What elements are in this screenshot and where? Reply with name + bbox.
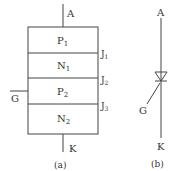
junction-j3-label: J3 <box>100 101 109 112</box>
thyristor-symbol-icon <box>147 18 167 138</box>
gate-label-a: G <box>11 93 19 104</box>
junction-j1-label: J1 <box>100 49 108 60</box>
caption-b: (b) <box>151 159 164 169</box>
figure-a-structure <box>10 4 98 152</box>
layer-n2-label: N2 <box>57 113 70 126</box>
gate-label-b: G <box>139 105 147 116</box>
layer-p1-label: P1 <box>57 35 68 48</box>
anode-label-a: A <box>66 8 75 19</box>
junction-j2-label: J2 <box>100 75 109 86</box>
layer-n1-label: N1 <box>57 60 70 73</box>
thyristor-diagram: A K G P1 N1 P2 N2 J1 J2 J3 (a) A K G (b) <box>0 0 176 171</box>
cathode-label-b: K <box>157 141 165 152</box>
anode-label-b: A <box>156 7 165 18</box>
gate-lead-b <box>147 83 160 104</box>
caption-a: (a) <box>54 160 66 170</box>
cathode-label-a: K <box>69 143 77 154</box>
layer-p2-label: P2 <box>57 86 68 99</box>
